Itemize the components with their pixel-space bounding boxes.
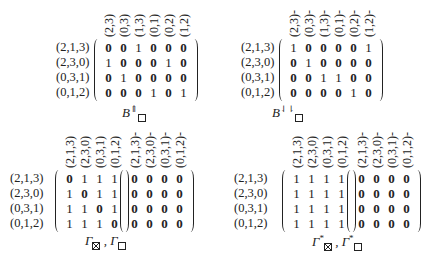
caption: Γ* , Γ*	[312, 233, 362, 252]
column-label: (0,1,2)	[335, 136, 350, 168]
right-paren	[414, 170, 421, 232]
matrix-cell: 0	[172, 186, 187, 201]
matrix-cell: 1	[286, 40, 301, 55]
caption-sup: *	[349, 233, 354, 243]
matrix-cell: 0	[354, 201, 369, 216]
row-labels: (2,1,3)(2,3,0)(0,3,1)(0,1,2)	[234, 171, 267, 231]
matrix-cell: 0	[369, 171, 384, 186]
crossed-box-symbol	[324, 243, 332, 251]
matrix-cell: 0	[101, 40, 116, 55]
matrix-cell: 1	[361, 40, 376, 55]
matrix-cell: 0	[346, 40, 361, 55]
matrix-cell: 1	[101, 55, 116, 70]
matrix: 0000000000000000	[347, 170, 421, 232]
row-label: (2,1,3)	[10, 171, 43, 186]
matrix-cell: 0	[172, 201, 187, 216]
matrix-cell: 1	[77, 216, 92, 231]
column-label: (2,3,0)-	[370, 132, 385, 168]
row-label: (0,1,2)	[234, 216, 267, 231]
left-paren	[120, 170, 127, 232]
matrix-cell: 0	[142, 201, 157, 216]
column-label: (2,3,0)-	[143, 132, 158, 168]
row-label: (0,3,1)	[56, 70, 89, 85]
matrix-cell: 0	[131, 85, 146, 100]
matrix-cell: 1	[301, 55, 316, 70]
matrix-cell: 0	[146, 70, 161, 85]
matrix-cell: 0	[301, 70, 316, 85]
matrix: 0111101111011110	[55, 170, 129, 232]
matrix-cell: 1	[92, 216, 107, 231]
matrix-cell: 0	[346, 55, 361, 70]
column-label: (0,1)-	[332, 10, 347, 37]
matrix-cell: 1	[319, 216, 334, 231]
row-label: (2,3,0)	[241, 55, 274, 70]
matrix-cell: 0	[399, 186, 414, 201]
matrix-cell: 0	[131, 55, 146, 70]
column-label: (1,3)	[132, 14, 147, 37]
matrix-cell: 0	[331, 55, 346, 70]
row-label: (2,1,3)	[234, 171, 267, 186]
row-label: (2,3,0)	[234, 186, 267, 201]
matrix-cell: 0	[77, 186, 92, 201]
matrix-cell: 0	[142, 186, 157, 201]
row-labels: (2,1,3)(2,3,0)(0,3,1)(0,1,2)	[241, 40, 274, 100]
column-label: (0,1)	[147, 14, 162, 37]
column-label: (2,3,0)	[78, 136, 93, 168]
matrix-cell: 1	[77, 171, 92, 186]
matrix-cell: 0	[62, 171, 77, 186]
row-label: (0,3,1)	[10, 201, 43, 216]
matrix-cell: 1	[319, 201, 334, 216]
matrix-cell: 1	[289, 171, 304, 186]
matrix-cell: 0	[301, 40, 316, 55]
column-label: (2,3,0)	[305, 136, 320, 168]
matrix-cell: 0	[369, 186, 384, 201]
matrix-cell: 0	[331, 40, 346, 55]
column-label: (0,3)	[117, 14, 132, 37]
column-label: (0,1,2)-	[400, 132, 415, 168]
matrix-cell: 0	[101, 70, 116, 85]
matrix-cell: 0	[369, 201, 384, 216]
caption-gamma: Γ	[342, 234, 349, 249]
row-label: (0,1,2)	[10, 216, 43, 231]
matrix-cell: 0	[384, 186, 399, 201]
matrix-cell: 0	[354, 171, 369, 186]
matrix-cell: 1	[304, 201, 319, 216]
column-label: (0,3,1)-	[158, 132, 173, 168]
matrix-cell: 0	[127, 216, 142, 231]
matrix-cell: 0	[157, 216, 172, 231]
box-symbol	[354, 243, 362, 251]
matrix-cell: 0	[146, 40, 161, 55]
matrix: 1111111111111111	[282, 170, 356, 232]
matrix: 0000000000000000	[120, 170, 194, 232]
column-label: (2,1,3)	[63, 136, 78, 168]
column-label: (0,3,1)	[93, 136, 108, 168]
box-symbol	[138, 114, 146, 122]
column-label: (2,1,3)-	[355, 132, 370, 168]
matrix-cell: 0	[157, 186, 172, 201]
matrix-cell: 1	[92, 171, 107, 186]
matrix-cell: 0	[361, 85, 376, 100]
matrix: 001000100010010000000101	[94, 39, 198, 101]
box-symbol	[118, 242, 126, 250]
column-label: (1,3)-	[317, 10, 332, 37]
matrix-cell: 1	[289, 186, 304, 201]
box-symbol	[295, 114, 303, 122]
row-label: (2,3,0)	[10, 186, 43, 201]
matrix-cell: 0	[142, 171, 157, 186]
matrix-cell: 0	[131, 70, 146, 85]
matrix-cell: 0	[176, 70, 191, 85]
column-label: (0,2)-	[347, 10, 362, 37]
column-label: (2,3)-	[287, 10, 302, 37]
matrix-cell: 0	[399, 216, 414, 231]
matrix-cell: 1	[131, 40, 146, 55]
matrix-cell: 0	[316, 85, 331, 100]
column-label: (2,3)	[102, 14, 117, 37]
right-paren	[187, 170, 194, 232]
matrix-cell: 1	[62, 201, 77, 216]
column-label: (2,1,3)	[290, 136, 305, 168]
matrix-cell: 0	[286, 70, 301, 85]
matrix-cell: 1	[289, 216, 304, 231]
matrix-cell: 0	[127, 201, 142, 216]
caption-sep: ,	[100, 233, 110, 248]
matrix-cell: 1	[319, 186, 334, 201]
